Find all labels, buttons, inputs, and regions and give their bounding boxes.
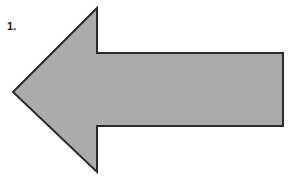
figure-canvas: 1. [0, 0, 300, 185]
arrow-diagram [0, 0, 300, 185]
left-arrow-icon [13, 8, 283, 172]
